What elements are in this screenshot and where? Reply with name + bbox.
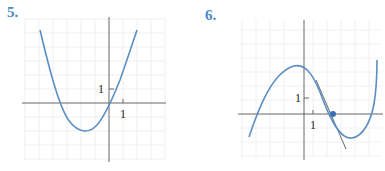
x-tick-label: 1 bbox=[120, 107, 126, 121]
graph-6-plot: 1 1 bbox=[192, 0, 385, 171]
y-tick-label: 1 bbox=[295, 91, 301, 105]
graph-6-panel: 6. 1 1 bbox=[192, 0, 385, 171]
graph-5-panel: 5. 1 1 bbox=[0, 0, 192, 171]
x-tick-label: 1 bbox=[310, 118, 316, 132]
y-tick-label: 1 bbox=[98, 82, 104, 96]
graph-5-plot: 1 1 bbox=[0, 0, 192, 171]
tangent-point bbox=[330, 111, 336, 117]
grid bbox=[240, 20, 382, 158]
grid bbox=[24, 19, 166, 160]
